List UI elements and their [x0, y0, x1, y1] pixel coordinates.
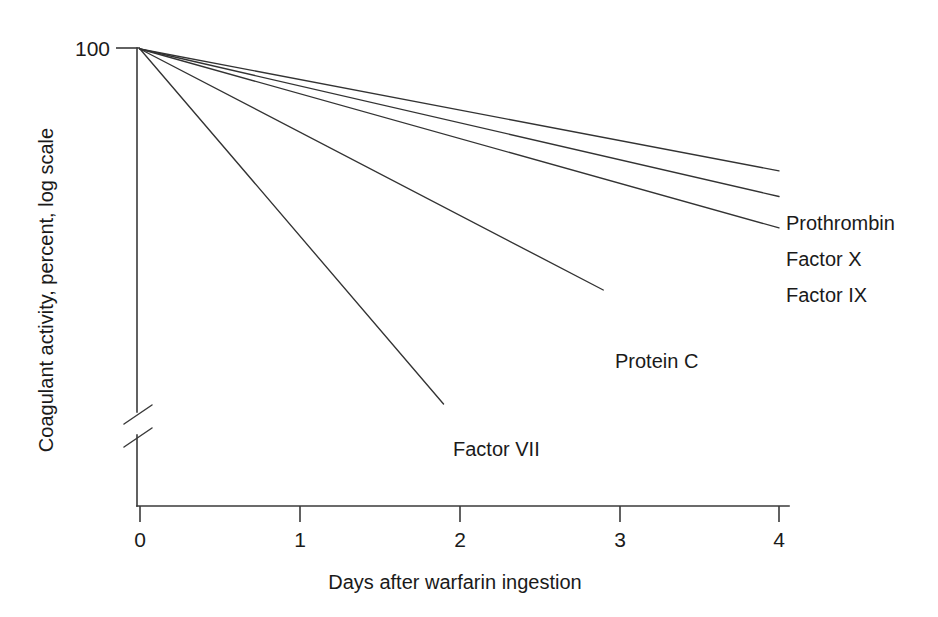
series-label-factor-vii: Factor VII	[453, 438, 540, 460]
series-label-prothrombin: Prothrombin	[786, 212, 895, 234]
series-label-factor-ix: Factor IX	[786, 284, 867, 306]
y-axis-title: Coagulant activity, percent, log scale	[35, 128, 57, 452]
series-label-factor-x: Factor X	[786, 248, 862, 270]
x-tick-label-2: 2	[454, 528, 466, 551]
series-label-protein-c: Protein C	[615, 350, 698, 372]
chart-background	[0, 0, 938, 617]
x-axis-title: Days after warfarin ingestion	[328, 571, 581, 593]
warfarin-coagulant-activity-chart: 100 Coagulant activity, percent, log sca…	[0, 0, 938, 617]
chart-figure: 100 Coagulant activity, percent, log sca…	[0, 0, 938, 617]
x-tick-label-0: 0	[134, 528, 146, 551]
y-tick-label-100: 100	[75, 37, 110, 60]
x-tick-label-1: 1	[294, 528, 306, 551]
x-tick-label-3: 3	[614, 528, 626, 551]
x-tick-label-4: 4	[773, 528, 785, 551]
